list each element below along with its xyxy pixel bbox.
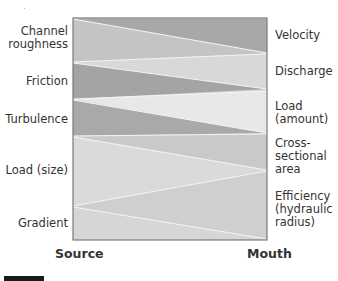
axis-mouth-label: Mouth bbox=[247, 246, 292, 261]
label-line: Velocity bbox=[275, 29, 320, 42]
label-line: Gradient bbox=[18, 217, 68, 230]
axis-source-label: Source bbox=[55, 246, 104, 261]
label-discharge: Discharge bbox=[275, 65, 333, 78]
label-efficiency: Efficiency (hydraulic radius) bbox=[275, 190, 333, 229]
label-line: Friction bbox=[26, 75, 68, 88]
label-velocity: Velocity bbox=[275, 29, 320, 42]
label-line: roughness bbox=[8, 38, 68, 51]
label-line: (amount) bbox=[275, 113, 328, 126]
label-line: Load (size) bbox=[5, 164, 68, 177]
label-channel-roughness: Channel roughness bbox=[8, 25, 68, 51]
label-line: Discharge bbox=[275, 65, 333, 78]
label-load-amount: Load (amount) bbox=[275, 100, 328, 126]
label-line: Turbulence bbox=[5, 113, 68, 126]
label-line: area bbox=[275, 163, 327, 176]
figure-tab-bar bbox=[4, 276, 44, 281]
label-load-size: Load (size) bbox=[5, 164, 68, 177]
label-gradient: Gradient bbox=[18, 217, 68, 230]
label-cross-sectional-area: Cross- sectional area bbox=[275, 137, 327, 176]
label-friction: Friction bbox=[26, 75, 68, 88]
label-line: radius) bbox=[275, 216, 333, 229]
label-turbulence: Turbulence bbox=[5, 113, 68, 126]
